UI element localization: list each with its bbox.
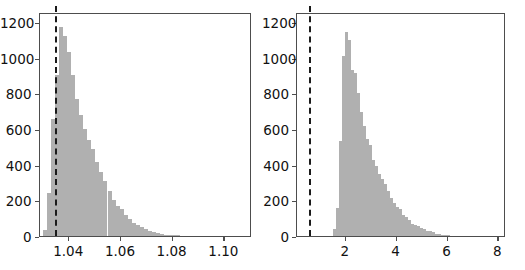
y-tick-label: 400	[0, 158, 32, 174]
x-tick-label: 1.04	[53, 243, 83, 259]
y-tick-mark	[292, 166, 296, 167]
y-tick-mark	[35, 201, 39, 202]
x-tick-mark	[497, 237, 498, 241]
y-tick-label: 200	[262, 193, 289, 209]
histogram-bar	[200, 236, 204, 237]
x-tick-label: 1.08	[157, 243, 187, 259]
x-tick-label: 4	[391, 243, 400, 259]
y-tick-label: 1200	[262, 15, 289, 31]
x-tick-mark	[447, 237, 448, 241]
y-tick-mark	[292, 94, 296, 95]
y-tick-mark	[35, 94, 39, 95]
histogram-bar	[456, 236, 459, 237]
x-tick-label: 1.06	[105, 243, 135, 259]
y-tick-label: 600	[0, 122, 32, 138]
y-tick-mark	[292, 130, 296, 131]
right-plot-area	[297, 14, 504, 236]
y-tick-label: 200	[0, 193, 32, 209]
right-reference-line	[309, 6, 311, 236]
y-tick-label: 1000	[262, 51, 289, 67]
y-tick-label: 0	[262, 229, 289, 245]
right-histogram-panel: 2468020040060080010001200	[262, 0, 525, 270]
y-tick-label: 600	[262, 122, 289, 138]
x-tick-label: 2	[341, 243, 350, 259]
y-tick-mark	[292, 201, 296, 202]
x-tick-label: 8	[493, 243, 502, 259]
y-tick-label: 800	[262, 86, 289, 102]
x-tick-label: 1.10	[208, 243, 238, 259]
x-tick-mark	[120, 237, 121, 241]
y-tick-mark	[292, 237, 296, 238]
y-tick-label: 0	[0, 229, 32, 245]
y-tick-label: 400	[262, 158, 289, 174]
y-tick-label: 800	[0, 86, 32, 102]
left-histogram-panel: 1.041.061.081.10020040060080010001200	[0, 0, 262, 270]
right-axes-frame	[296, 13, 505, 237]
x-tick-mark	[172, 237, 173, 241]
y-tick-mark	[35, 237, 39, 238]
histogram-figure: 1.041.061.081.10020040060080010001200 24…	[0, 0, 525, 270]
x-tick-mark	[68, 237, 69, 241]
y-tick-label: 1200	[0, 15, 32, 31]
x-tick-mark	[345, 237, 346, 241]
y-tick-mark	[35, 166, 39, 167]
left-plot-area	[40, 14, 250, 236]
y-tick-mark	[35, 59, 39, 60]
x-tick-mark	[396, 237, 397, 241]
left-reference-line	[55, 6, 57, 236]
y-tick-mark	[35, 23, 39, 24]
x-tick-label: 6	[442, 243, 451, 259]
left-axes-frame	[39, 13, 251, 237]
y-tick-mark	[35, 130, 39, 131]
x-tick-mark	[223, 237, 224, 241]
y-tick-label: 1000	[0, 51, 32, 67]
